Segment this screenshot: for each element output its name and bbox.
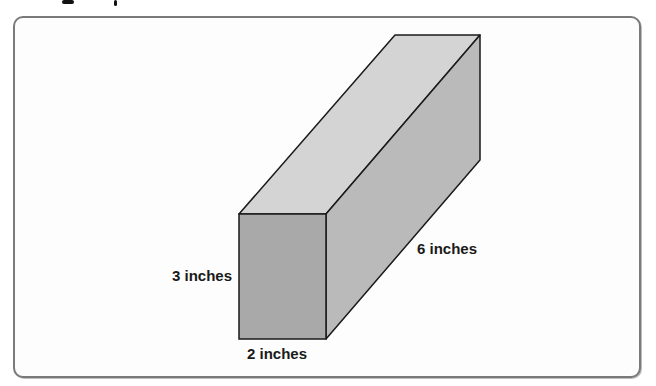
rectangular-prism-diagram: 3 inches 2 inches 6 inches [0, 0, 656, 386]
width-label: 2 inches [247, 345, 307, 362]
length-label: 6 inches [417, 240, 477, 257]
prism-front-face [239, 214, 326, 339]
height-label: 3 inches [172, 267, 232, 284]
